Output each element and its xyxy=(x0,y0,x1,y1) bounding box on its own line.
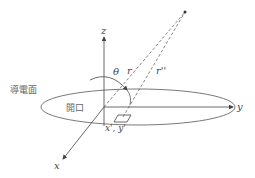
r-double-prime-label: r'' xyxy=(156,66,166,76)
x-axis xyxy=(63,107,104,159)
theta-label: θ xyxy=(113,67,119,77)
r-line xyxy=(104,12,185,107)
source-element xyxy=(114,115,131,122)
z-axis-label: z xyxy=(101,26,106,36)
projection-arc xyxy=(127,90,131,105)
r-label: r xyxy=(127,66,132,76)
theta-arc xyxy=(90,77,127,90)
aperture-radiation-diagram: z y x θ r r'' x', y' 導電面 開口 xyxy=(0,0,255,178)
r-double-prime-line xyxy=(123,12,185,117)
y-axis-label: y xyxy=(237,102,243,112)
x-axis-label: x xyxy=(54,161,60,171)
observation-point xyxy=(184,11,187,14)
aperture-label: 開口 xyxy=(66,104,84,113)
source-point-label: x', y' xyxy=(105,124,126,133)
conducting-plane-label: 導電面 xyxy=(10,86,37,95)
diagram-graphics xyxy=(0,0,255,178)
